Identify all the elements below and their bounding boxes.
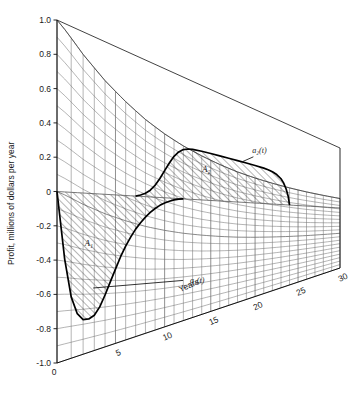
hatched-regions xyxy=(57,149,290,320)
y-tick-label: -0.4 xyxy=(36,255,51,265)
y-tick-label: -0.2 xyxy=(36,221,51,231)
y-tick-label: 0.6 xyxy=(39,84,51,94)
leader-a2 xyxy=(243,157,254,162)
y-tick-label: -1.0 xyxy=(36,358,51,368)
x-tick-label: 5 xyxy=(114,347,123,358)
area-a2-label: A₂ xyxy=(201,164,210,174)
profit-surface-chart: 1.00.80.60.40.20-0.2-0.4-0.6-0.8-1.0 510… xyxy=(0,0,360,395)
y-tick-label: -0.8 xyxy=(36,324,51,334)
y-tick-labels: 1.00.80.60.40.20-0.2-0.4-0.6-0.8-1.0 xyxy=(36,15,51,368)
y-tick-label: 1.0 xyxy=(39,15,51,25)
curve-a2-label: a₂(t) xyxy=(252,146,267,155)
x-tick-label: 20 xyxy=(252,299,265,312)
y-tick-label: 0.4 xyxy=(39,118,51,128)
x-tick-label: 15 xyxy=(207,314,220,327)
x-tick-label: 30 xyxy=(336,271,349,284)
y-tick-marks xyxy=(54,20,58,363)
y-tick-label: 0 xyxy=(46,187,51,197)
figure-container: 1.00.80.60.40.20-0.2-0.4-0.6-0.8-1.0 510… xyxy=(0,0,360,395)
x-tick-label: 10 xyxy=(161,330,174,343)
y-tick-label: -0.6 xyxy=(36,289,51,299)
x-tick-labels: 51015202530 xyxy=(114,271,349,359)
area-a1-label: A₁ xyxy=(84,238,93,248)
y-axis-label: Profit, millions of dollars per year xyxy=(6,142,16,265)
curve-a1-label: a₁(t) xyxy=(190,276,205,285)
area-a2-fill xyxy=(136,149,290,205)
x-tick-label: 25 xyxy=(294,285,307,298)
y-tick-label: 0.2 xyxy=(39,152,51,162)
origin-label: 0 xyxy=(52,367,57,377)
y-tick-label: 0.8 xyxy=(39,49,51,59)
